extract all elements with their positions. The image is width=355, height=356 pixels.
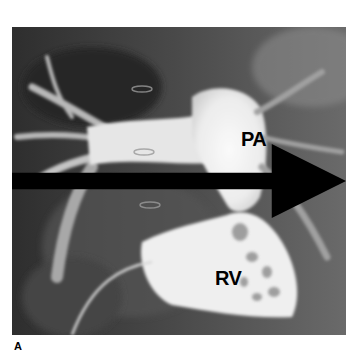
arrow-icon (12, 27, 346, 335)
panel-label: A (14, 340, 22, 352)
angiogram-image: PA RV (12, 27, 346, 335)
